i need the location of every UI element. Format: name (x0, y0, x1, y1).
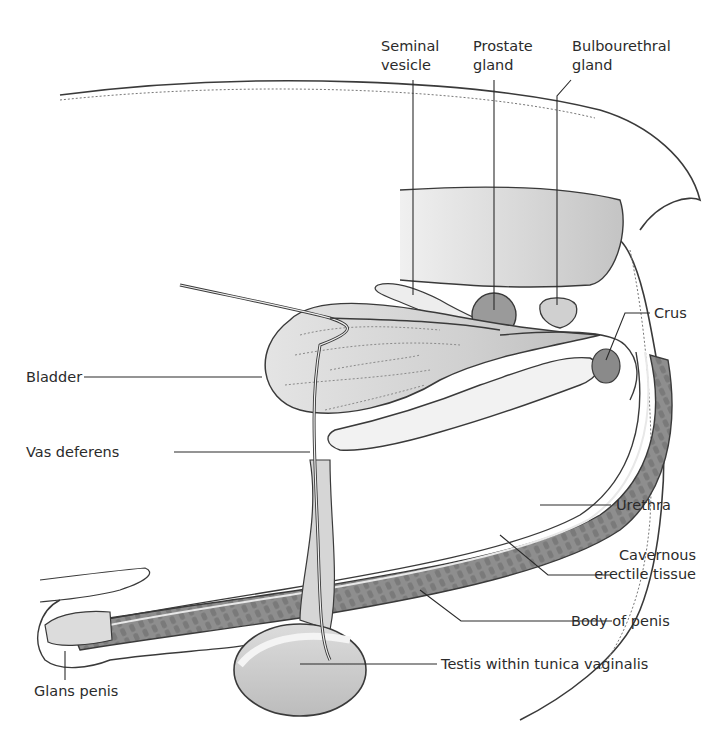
label-line: Cavernous (594, 546, 696, 565)
label-line: gland (572, 56, 671, 75)
label-line: Bulbourethral (572, 37, 671, 56)
label-glans-penis: Glans penis (34, 682, 118, 701)
label-bladder: Bladder (26, 368, 82, 387)
label-line: gland (473, 56, 533, 75)
label-line: Prostate (473, 37, 533, 56)
label-crus: Crus (654, 304, 687, 323)
glans-shape (45, 611, 112, 645)
label-body-of-penis: Body of penis (571, 612, 670, 631)
crus-shape (592, 349, 620, 383)
label-urethra: Urethra (616, 496, 671, 515)
label-line: vesicle (381, 56, 439, 75)
rectum (400, 187, 623, 287)
label-bulbourethral-gland: Bulbourethral gland (572, 37, 671, 75)
label-prostate-gland: Prostate gland (473, 37, 533, 75)
label-line: erectile tissue (594, 565, 696, 584)
label-testis: Testis within tunica vaginalis (441, 655, 648, 674)
label-cavernous-erectile-tissue: Cavernous erectile tissue (594, 546, 696, 584)
label-seminal-vesicle: Seminal vesicle (381, 37, 439, 75)
label-vas-deferens: Vas deferens (26, 443, 119, 462)
label-line: Seminal (381, 37, 439, 56)
bulbourethral-shape (540, 298, 577, 328)
